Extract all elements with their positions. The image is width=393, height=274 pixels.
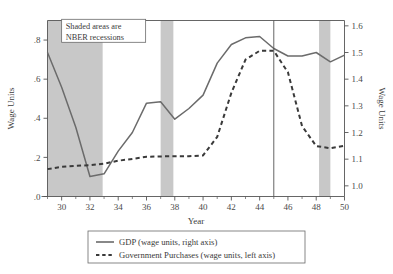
y-tick-label-left: .6 <box>34 74 41 84</box>
y-tick-label-right: 1.5 <box>352 48 364 58</box>
y-tick-label-right: 1.3 <box>352 101 364 111</box>
x-tick-label: 36 <box>142 202 152 212</box>
y-tick-label-right: 1.4 <box>352 74 364 84</box>
recession-band <box>48 21 103 197</box>
y-tick-label-right: 1.6 <box>352 21 364 31</box>
x-tick-label: 48 <box>312 202 322 212</box>
x-tick-label: 44 <box>255 202 265 212</box>
annotation-box: Shaded areas areNBER recessions <box>62 19 146 42</box>
x-tick-label: 30 <box>57 202 67 212</box>
annotation-line: NBER recessions <box>66 33 124 42</box>
y-axis-title-left: Wage Units <box>6 87 16 130</box>
y-tick-label-left: .0 <box>34 192 41 202</box>
legend-label: Government Purchases (wage units, left a… <box>119 250 275 260</box>
y-tick-label-right: 1.1 <box>352 154 363 164</box>
x-tick-label: 32 <box>85 202 94 212</box>
x-tick-label: 40 <box>199 202 209 212</box>
x-axis-title: Year <box>188 216 205 226</box>
x-tick-label: 50 <box>340 202 350 212</box>
y-tick-label-right: 1.0 <box>352 181 364 191</box>
chart-figure: 3032343638404244464850.0.2.4.6.81.01.11.… <box>0 0 393 274</box>
legend-label: GDP (wage units, right axis) <box>119 237 217 247</box>
recession-band <box>319 21 330 197</box>
x-tick-label: 46 <box>283 202 293 212</box>
wage-units-line-chart: 3032343638404244464850.0.2.4.6.81.01.11.… <box>0 0 393 274</box>
y-tick-label-left: .4 <box>34 113 41 123</box>
annotation-line: Shaded areas are <box>66 22 122 31</box>
x-tick-label: 38 <box>170 202 180 212</box>
y-tick-label-right: 1.2 <box>352 128 363 138</box>
legend-box: GDP (wage units, right axis)Government P… <box>88 231 305 263</box>
x-tick-label: 34 <box>114 202 124 212</box>
y-tick-label-left: .8 <box>34 35 41 45</box>
y-tick-label-left: .2 <box>34 153 41 163</box>
y-axis-title-right: Wage Units <box>377 87 387 130</box>
x-tick-label: 42 <box>227 202 236 212</box>
